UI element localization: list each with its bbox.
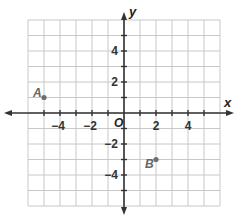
x-axis-arrow-left-icon <box>4 110 12 116</box>
y-tick-label: −4 <box>104 168 118 182</box>
point-b <box>153 157 158 162</box>
tick-labels: x y O −4−22442−2−4 <box>51 4 232 182</box>
x-tick-label: −4 <box>51 119 65 133</box>
y-tick-label: 4 <box>111 44 118 58</box>
x-tick-label: 2 <box>153 119 160 133</box>
y-tick-label: −2 <box>104 137 118 151</box>
y-axis-label: y <box>128 4 137 19</box>
point-label-b: B <box>145 157 154 171</box>
y-tick-label: 2 <box>111 75 118 89</box>
x-axis-arrow-right-icon <box>226 110 234 116</box>
origin-label: O <box>114 116 124 130</box>
x-axis-label: x <box>223 95 232 110</box>
y-axis-arrow-up-icon <box>121 12 127 20</box>
point-label-a: A <box>32 86 42 100</box>
y-axis-arrow-down-icon <box>121 207 127 215</box>
coordinate-plane: x y O −4−22442−2−4 AB <box>0 0 244 222</box>
x-tick-label: 4 <box>185 119 192 133</box>
x-tick-label: −2 <box>83 119 97 133</box>
point-a <box>41 95 46 100</box>
axes <box>4 12 234 215</box>
